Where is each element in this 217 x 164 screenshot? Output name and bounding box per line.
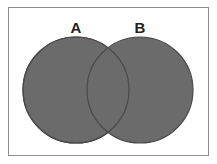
set-a-label: A	[71, 19, 82, 36]
set-b-label: B	[135, 19, 146, 36]
set-b-circle	[87, 37, 193, 143]
venn-diagram: A B	[0, 0, 217, 164]
